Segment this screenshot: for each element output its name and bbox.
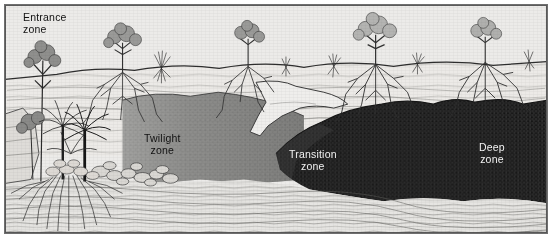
- label-deep-zone: Deep zone: [479, 142, 505, 166]
- scene-artwork: [5, 5, 547, 233]
- cave-zonation-figure: Entrance zone Twilight zone Transition z…: [0, 0, 552, 238]
- label-twilight-zone: Twilight zone: [144, 133, 181, 157]
- label-entrance-zone: Entrance zone: [23, 12, 67, 36]
- label-transition-zone: Transition zone: [289, 149, 337, 173]
- illustration-plate: Entrance zone Twilight zone Transition z…: [4, 4, 548, 234]
